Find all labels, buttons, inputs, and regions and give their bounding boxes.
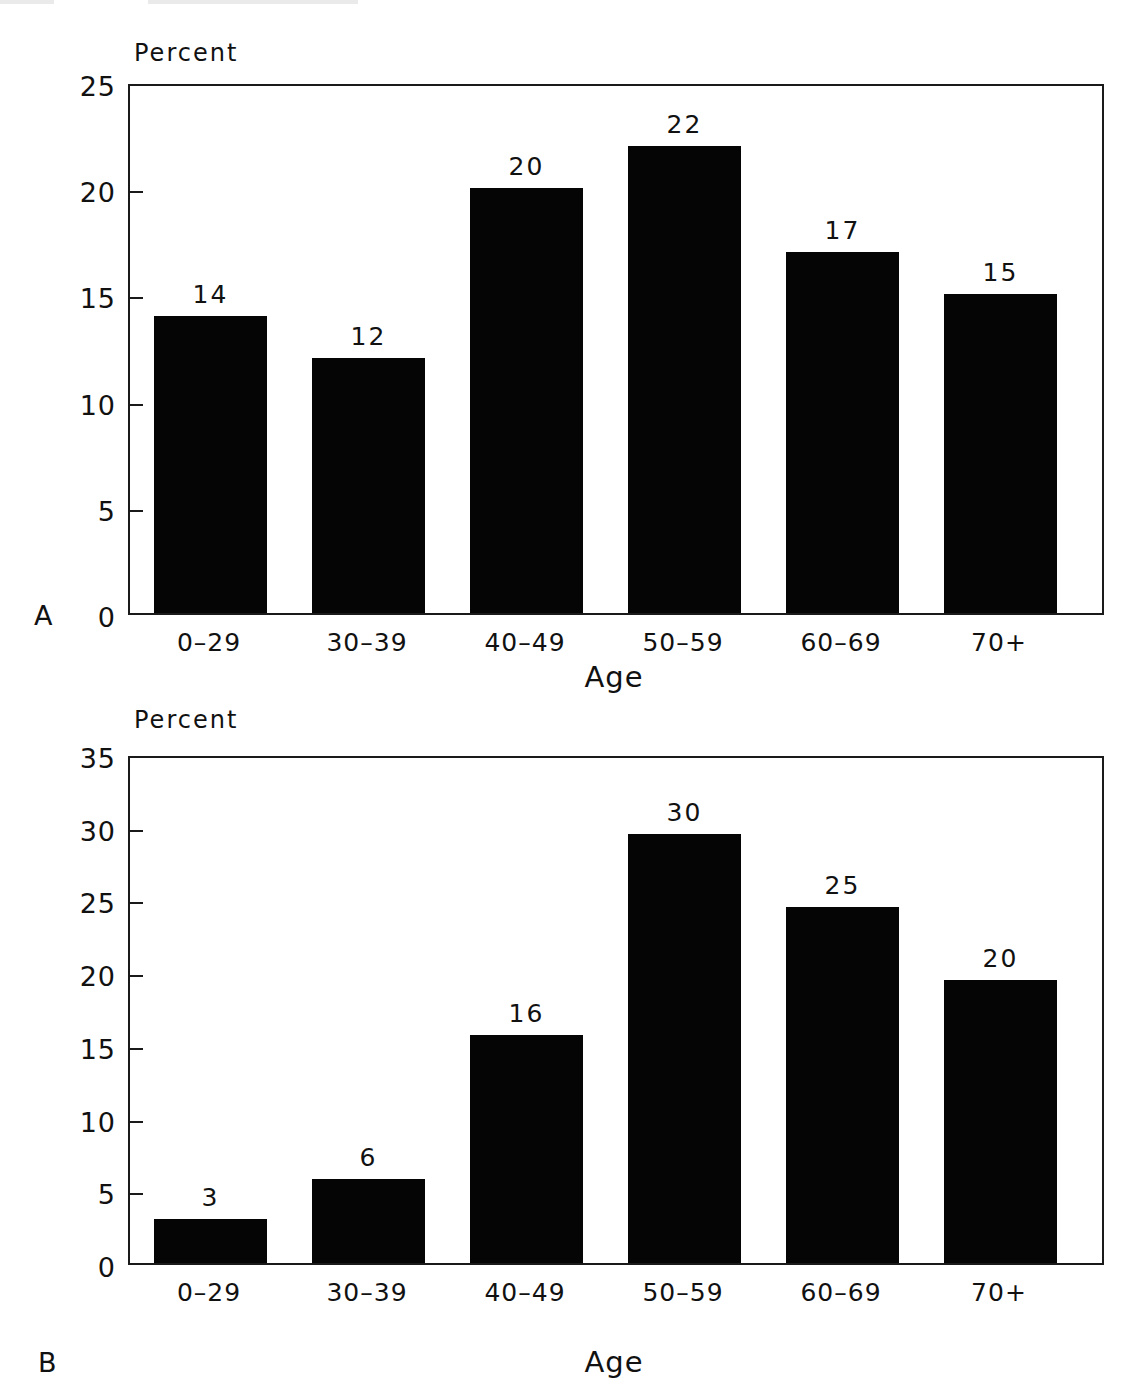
- xtick-label-40-49: 40–49: [484, 628, 565, 657]
- panel-a: A Percent 25 20 15 10 5: [0, 0, 1135, 700]
- bar-70-plus: 20: [944, 980, 1057, 1264]
- panel-b-x-axis-title: Age: [584, 1345, 643, 1379]
- panel-a-letter: A: [34, 600, 52, 631]
- bar-value-label: 20: [509, 152, 545, 181]
- figure-root: A Percent 25 20 15 10 5: [0, 0, 1135, 1394]
- panel-b-plot-area: 35 30 25 20 15 10: [128, 756, 1104, 1265]
- bar-30-39: 6: [312, 1179, 425, 1263]
- bar-50-59: 22: [628, 146, 741, 613]
- xtick-label-70-plus: 70+: [971, 1278, 1027, 1307]
- bar-40-49: 20: [470, 188, 583, 613]
- xtick-label-50-59: 50–59: [642, 628, 723, 657]
- panel-b-letter: B: [38, 1347, 57, 1378]
- bar-60-69: 17: [786, 252, 899, 613]
- panel-a-bars: 14 12 20 22 17 15: [130, 86, 1102, 613]
- bar-0-29: 3: [154, 1219, 267, 1263]
- panel-a-plot-area: 25 20 15 10 5 0: [128, 84, 1104, 615]
- bar-0-29: 14: [154, 316, 267, 613]
- xtick-label-60-69: 60–69: [800, 628, 881, 657]
- bar-value-label: 3: [202, 1183, 220, 1212]
- bar-value-label: 12: [351, 322, 387, 351]
- bar-value-label: 30: [667, 798, 703, 827]
- panel-b-y-axis-unit-label: Percent: [134, 706, 238, 734]
- xtick-label-0-29: 0–29: [177, 628, 241, 657]
- panel-a-x-axis-title: Age: [584, 660, 643, 694]
- xtick-label-70-plus: 70+: [971, 628, 1027, 657]
- bar-value-label: 20: [983, 944, 1019, 973]
- bar-value-label: 25: [825, 871, 861, 900]
- xtick-label-30-39: 30–39: [326, 1278, 407, 1307]
- bar-30-39: 12: [312, 358, 425, 613]
- bar-60-69: 25: [786, 907, 899, 1263]
- bar-value-label: 16: [509, 999, 545, 1028]
- bar-value-label: 17: [825, 216, 861, 245]
- bar-50-59: 30: [628, 834, 741, 1263]
- bar-value-label: 14: [193, 280, 229, 309]
- xtick-label-0-29: 0–29: [177, 1278, 241, 1307]
- xtick-label-60-69: 60–69: [800, 1278, 881, 1307]
- xtick-label-30-39: 30–39: [326, 628, 407, 657]
- bar-value-label: 15: [983, 258, 1019, 287]
- bar-40-49: 16: [470, 1035, 583, 1263]
- panel-b: B Percent 35 30 25 20 15: [0, 700, 1135, 1394]
- xtick-label-40-49: 40–49: [484, 1278, 565, 1307]
- xtick-label-50-59: 50–59: [642, 1278, 723, 1307]
- bar-70-plus: 15: [944, 294, 1057, 613]
- panel-b-bars: 3 6 16 30 25 20: [130, 758, 1102, 1263]
- bar-value-label: 22: [667, 110, 703, 139]
- panel-a-y-axis-unit-label: Percent: [134, 39, 238, 67]
- bar-value-label: 6: [360, 1143, 378, 1172]
